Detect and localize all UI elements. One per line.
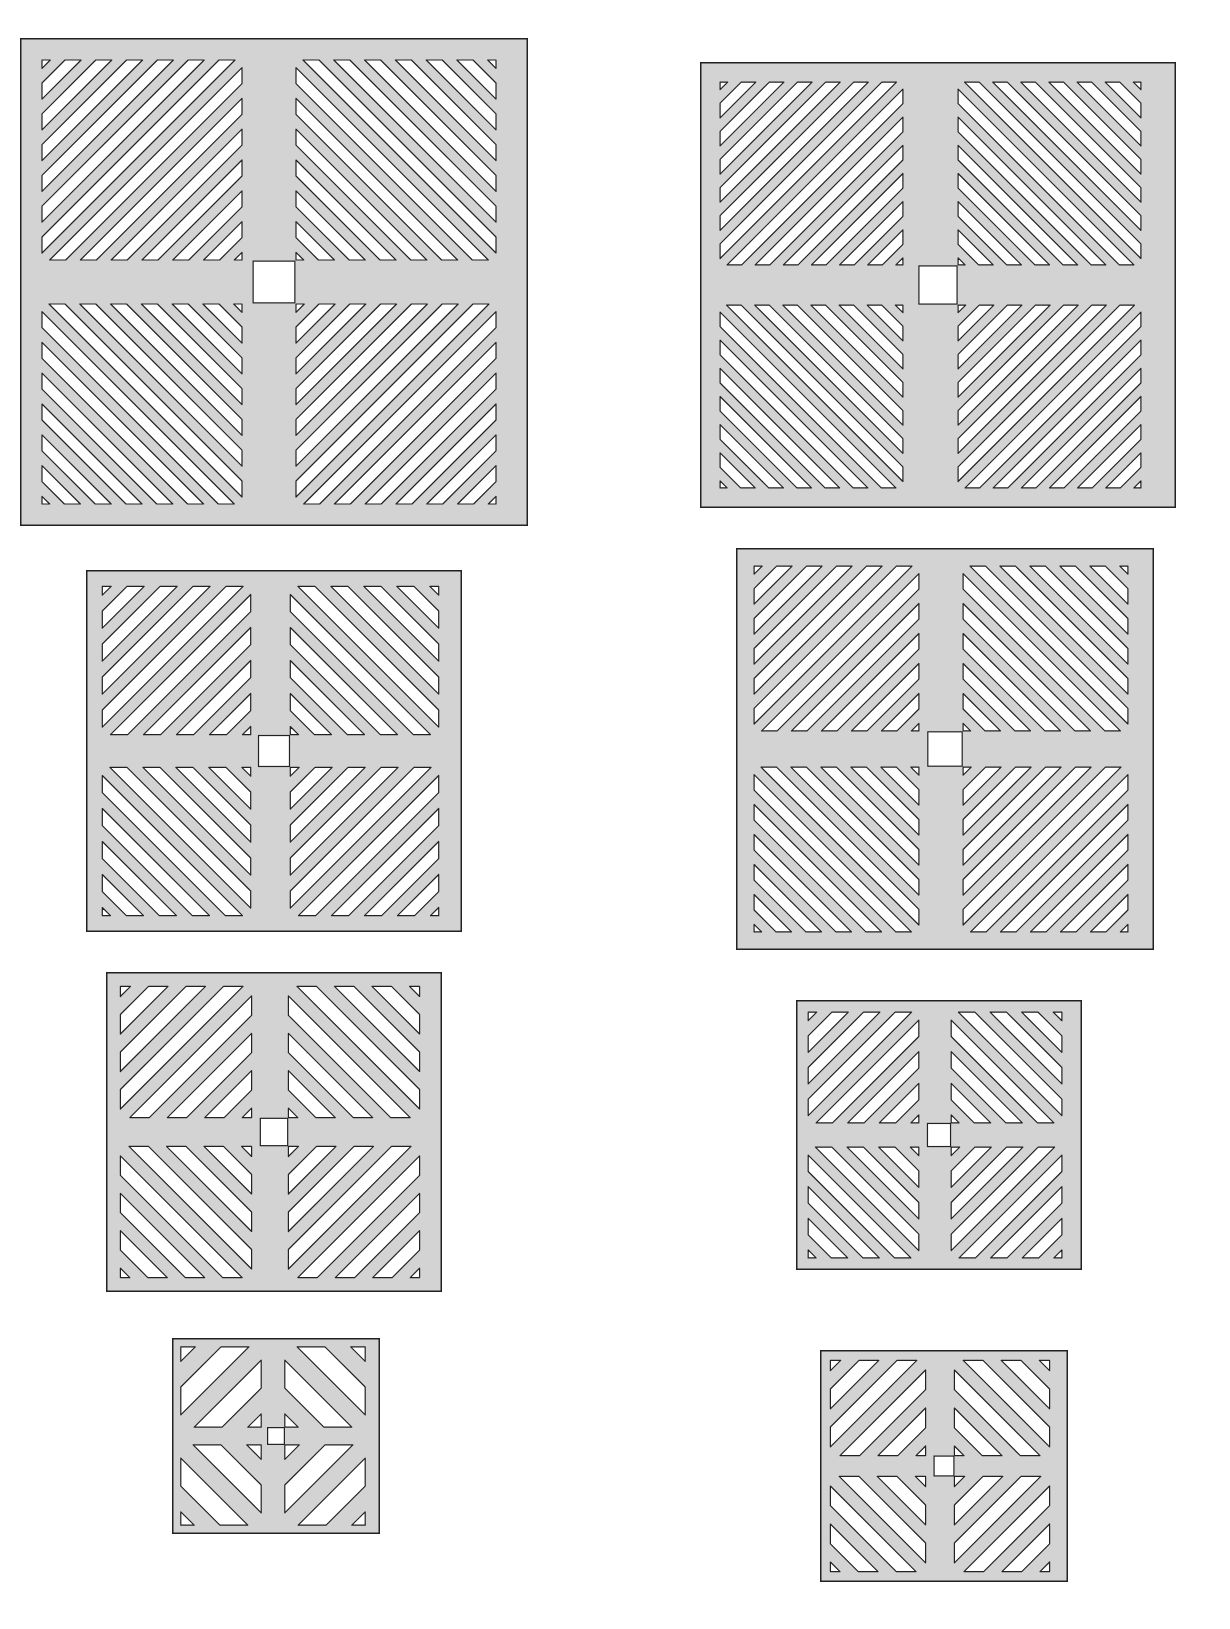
perforated-panel — [172, 1338, 380, 1534]
perforated-panel — [820, 1350, 1068, 1582]
perforated-panel — [700, 62, 1176, 508]
perforated-panel — [736, 548, 1154, 950]
perforated-panel — [796, 1000, 1082, 1270]
perforated-panel — [20, 38, 528, 526]
perforated-panel — [86, 570, 462, 932]
perforated-panel — [106, 972, 442, 1292]
